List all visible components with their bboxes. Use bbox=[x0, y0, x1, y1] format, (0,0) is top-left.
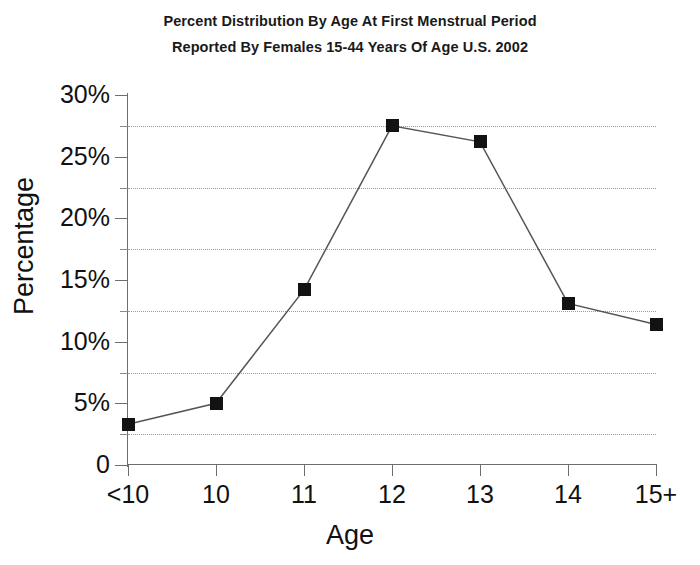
x-axis-tick-label: 14 bbox=[523, 481, 613, 507]
chart-container: Percent Distribution By Age At First Men… bbox=[0, 0, 700, 565]
x-axis-tick-label: <10 bbox=[83, 481, 173, 507]
x-axis-tick bbox=[304, 465, 305, 476]
y-axis-tick-label-text: 0 bbox=[38, 452, 110, 477]
x-axis-tick bbox=[128, 465, 129, 476]
x-axis-tick bbox=[216, 465, 217, 476]
y-axis-minor-tick bbox=[120, 188, 128, 189]
chart-title-line-1: Percent Distribution By Age At First Men… bbox=[0, 8, 700, 34]
data-point-marker bbox=[298, 283, 311, 296]
data-point-marker bbox=[122, 418, 135, 431]
y-axis-tick bbox=[115, 342, 128, 343]
y-axis-minor-tick bbox=[120, 373, 128, 374]
plot-area bbox=[128, 95, 656, 465]
y-axis-tick bbox=[115, 95, 128, 96]
y-axis-minor-tick bbox=[120, 311, 128, 312]
x-axis-tick-label: 10 bbox=[171, 481, 261, 507]
x-axis-tick bbox=[392, 465, 393, 476]
data-point-marker bbox=[386, 119, 399, 132]
chart-title: Percent Distribution By Age At First Men… bbox=[0, 8, 700, 60]
y-axis-tick-label-text: 30% bbox=[38, 82, 110, 107]
x-axis-title: Age bbox=[0, 521, 700, 549]
y-axis-tick-label-text: 15% bbox=[38, 267, 110, 292]
x-axis-tick bbox=[480, 465, 481, 476]
x-axis-tick bbox=[568, 465, 569, 476]
x-axis-tick-label: 12 bbox=[347, 481, 437, 507]
y-axis-title: Percentage bbox=[10, 126, 38, 366]
y-axis-minor-tick bbox=[120, 434, 128, 435]
x-axis-tick-label: 11 bbox=[259, 481, 349, 507]
y-axis-tick-label-text: 10% bbox=[38, 329, 110, 354]
data-point-marker bbox=[650, 318, 663, 331]
y-axis-tick-label-text: 20% bbox=[38, 205, 110, 230]
y-axis-tick bbox=[115, 280, 128, 281]
y-axis-tick bbox=[115, 218, 128, 219]
y-axis-tick-label-text: 25% bbox=[38, 144, 110, 169]
y-axis-tick bbox=[115, 157, 128, 158]
x-axis-tick bbox=[656, 465, 657, 476]
y-axis-minor-tick bbox=[120, 249, 128, 250]
x-axis-tick-label: 15+ bbox=[611, 481, 700, 507]
data-point-marker bbox=[474, 135, 487, 148]
x-axis-tick-label: 13 bbox=[435, 481, 525, 507]
chart-title-line-2: Reported By Females 15-44 Years Of Age U… bbox=[0, 34, 700, 60]
data-point-marker bbox=[562, 297, 575, 310]
y-axis-tick bbox=[115, 403, 128, 404]
data-point-marker bbox=[210, 397, 223, 410]
series-line bbox=[128, 95, 656, 465]
y-axis-tick-label-text: 5% bbox=[38, 390, 110, 415]
y-axis-minor-tick bbox=[120, 126, 128, 127]
y-axis-tick bbox=[115, 465, 128, 466]
